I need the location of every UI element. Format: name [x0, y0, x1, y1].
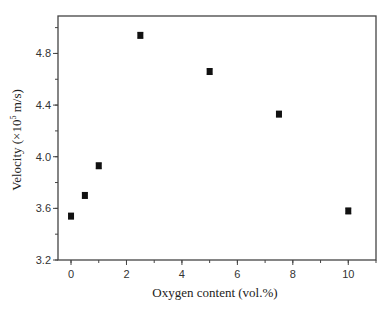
- plot-frame: [58, 16, 376, 260]
- data-points: [68, 32, 351, 220]
- scatter-chart: 02468103.23.64.04.44.8 Oxygen content (v…: [0, 0, 392, 316]
- data-point-square: [207, 68, 213, 75]
- y-tick-label: 3.6: [36, 202, 51, 214]
- y-tick-label: 4.0: [36, 151, 51, 163]
- data-point-square: [82, 192, 88, 199]
- x-tick-label: 4: [179, 268, 185, 280]
- y-tick-label: 4.4: [36, 99, 51, 111]
- data-point-square: [276, 111, 282, 118]
- y-axis-title: Velocity (×105 m/s): [9, 89, 24, 191]
- y-tick-label: 3.2: [36, 254, 51, 266]
- x-tick-label: 0: [68, 268, 74, 280]
- data-point-square: [96, 162, 102, 169]
- x-tick-label: 10: [342, 268, 354, 280]
- axis-ticks: 02468103.23.64.04.44.8: [36, 28, 376, 280]
- x-tick-label: 8: [290, 268, 296, 280]
- x-axis-title: Oxygen content (vol.%): [152, 285, 277, 300]
- data-point-square: [68, 213, 74, 220]
- x-tick-label: 6: [234, 268, 240, 280]
- data-point-square: [137, 32, 143, 39]
- data-point-square: [345, 207, 351, 214]
- y-tick-label: 4.8: [36, 47, 51, 59]
- x-tick-label: 2: [123, 268, 129, 280]
